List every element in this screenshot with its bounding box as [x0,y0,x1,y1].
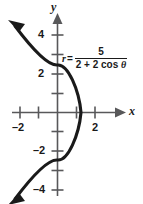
x-axis-label: x [129,105,135,117]
x-axis-arrowhead [115,108,126,118]
equation-equals-sign: = [67,54,73,64]
polar-graph-figure: y x –2 2 4 2 –2 –4 r = 5 2 + 2 cos θ [0,0,143,204]
x-tick-label--2: –2 [12,122,24,133]
y-axis-label: y [51,1,56,13]
y-tick-label--2: –2 [33,145,45,156]
fraction-denominator: 2 + 2 cos θ [75,59,128,70]
equation-annotation: r = 5 2 + 2 cos θ [62,47,127,70]
equation-variable: r [62,54,66,64]
graph-canvas [0,0,143,204]
y-tick-label--4: –4 [33,184,45,195]
denominator-prefix: 2 + 2 cos [76,59,121,70]
y-tick-label-2: 2 [38,68,44,79]
equation-fraction: 5 2 + 2 cos θ [75,47,128,70]
fraction-numerator: 5 [95,47,107,58]
x-tick-label-2: 2 [92,122,98,133]
y-axis-arrowhead [53,13,63,24]
y-tick-label-4: 4 [38,29,44,40]
theta-symbol: θ [121,59,126,70]
